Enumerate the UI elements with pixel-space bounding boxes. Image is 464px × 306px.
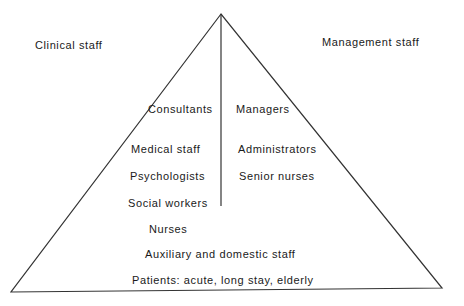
level-patients: Patients: acute, long stay, elderly [132,274,314,286]
group-label-clinical: Clinical staff [35,39,103,51]
level-nurses: Nurses [149,223,187,235]
level-medical-staff: Medical staff [131,143,200,155]
level-managers: Managers [236,103,290,115]
level-social-workers: Social workers [128,197,208,209]
level-auxiliary-domestic: Auxiliary and domestic staff [145,248,296,260]
level-consultants: Consultants [148,103,213,115]
group-label-management: Management staff [322,36,419,48]
level-psychologists: Psychologists [130,170,205,182]
level-senior-nurses: Senior nurses [239,170,315,182]
level-administrators: Administrators [238,143,317,155]
